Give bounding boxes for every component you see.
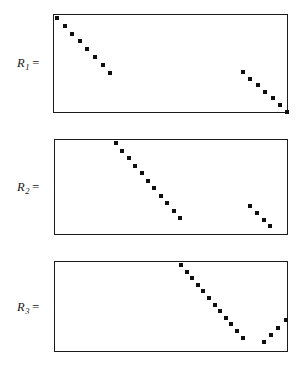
dot-layer-r2	[55, 140, 287, 234]
matrix-dot	[269, 333, 273, 337]
matrix-dot	[235, 329, 239, 333]
matrix-box-r1	[53, 14, 288, 113]
matrix-dot	[159, 194, 163, 198]
matrix-label-r3: R3=	[17, 300, 40, 315]
matrix-dot	[108, 71, 112, 75]
matrix-dot	[78, 39, 82, 43]
matrix-dot	[196, 283, 200, 287]
matrix-label-r2-base: R	[17, 180, 25, 194]
dot-layer-r3	[55, 262, 287, 351]
matrix-dot	[101, 63, 105, 67]
matrix-dot	[179, 263, 183, 267]
matrix-label-r2-equals: =	[32, 180, 39, 194]
matrix-dot	[133, 164, 137, 168]
matrix-dot	[140, 171, 144, 175]
matrix-dot	[241, 70, 245, 74]
matrix-label-r1: R1=	[17, 56, 40, 71]
matrix-dot	[268, 224, 272, 228]
matrix-dot	[63, 24, 67, 28]
matrix-dot	[213, 303, 217, 307]
matrix-label-r2: R2=	[17, 180, 40, 195]
matrix-dot	[218, 309, 222, 313]
matrix-box-r2	[54, 139, 288, 235]
matrix-dot	[172, 209, 176, 213]
matrix-dot	[146, 179, 150, 183]
matrix-dot	[114, 141, 118, 145]
matrix-box-r3	[54, 261, 288, 352]
matrix-dot	[278, 103, 282, 107]
matrix-dot	[165, 201, 169, 205]
matrix-dot	[248, 204, 252, 208]
matrix-dot	[224, 316, 228, 320]
matrix-dot	[93, 55, 97, 59]
matrix-dot	[55, 16, 59, 20]
matrix-label-r2-subscript: 2	[25, 186, 29, 196]
matrix-dot	[190, 276, 194, 280]
matrix-dot	[207, 296, 211, 300]
matrix-dot	[271, 96, 275, 100]
matrix-dot	[127, 156, 131, 160]
matrix-dot	[229, 322, 233, 326]
sparsity-pattern-figure: R1= R2= R3=	[0, 0, 304, 371]
matrix-dot	[284, 318, 288, 322]
matrix-dot	[262, 340, 266, 344]
matrix-label-r3-subscript: 3	[25, 306, 29, 316]
matrix-dot	[185, 270, 189, 274]
matrix-dot	[241, 336, 245, 340]
matrix-dot	[85, 47, 89, 51]
matrix-dot	[256, 83, 260, 87]
matrix-dot	[248, 77, 252, 81]
matrix-dot	[255, 211, 259, 215]
matrix-dot	[262, 218, 266, 222]
matrix-label-r1-subscript: 1	[25, 62, 29, 72]
matrix-dot	[276, 326, 280, 330]
matrix-label-r1-equals: =	[32, 56, 39, 70]
matrix-dot	[285, 110, 289, 114]
dot-layer-r1	[54, 15, 287, 112]
matrix-dot	[120, 149, 124, 153]
matrix-dot	[263, 90, 267, 94]
matrix-dot	[201, 289, 205, 293]
matrix-label-r1-base: R	[17, 56, 25, 70]
matrix-dot	[152, 186, 156, 190]
matrix-dot	[70, 32, 74, 36]
matrix-label-r3-base: R	[17, 300, 25, 314]
matrix-label-r3-equals: =	[32, 300, 39, 314]
matrix-dot	[178, 216, 182, 220]
